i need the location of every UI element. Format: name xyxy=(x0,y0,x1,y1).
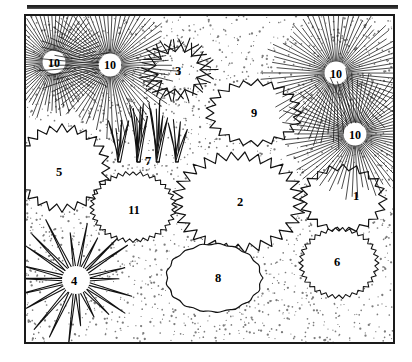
symbol-label-7: 7 xyxy=(145,155,151,168)
symbol-label-1: 1 xyxy=(353,190,359,203)
symbol-label-4: 4 xyxy=(71,275,77,288)
top-rule-divider xyxy=(27,5,398,9)
symbol-label-10: 10 xyxy=(104,59,116,71)
symbol-label-3: 3 xyxy=(175,65,181,78)
symbol-label-8: 8 xyxy=(215,272,221,285)
symbol-label-5: 5 xyxy=(56,166,62,179)
symbol-label-10: 10 xyxy=(349,129,361,141)
symbol-label-9: 9 xyxy=(251,107,257,120)
symbol-label-10: 10 xyxy=(330,68,342,80)
symbol-label-2: 2 xyxy=(237,196,243,209)
symbol-label-10: 10 xyxy=(48,57,60,69)
symbol-label-11: 11 xyxy=(128,204,139,216)
symbol-label-6: 6 xyxy=(334,256,340,269)
figure-stage: 1010310910751211684 xyxy=(0,0,412,362)
figure-frame: 1010310910751211684 xyxy=(24,14,395,344)
symbol-layer xyxy=(26,16,393,342)
